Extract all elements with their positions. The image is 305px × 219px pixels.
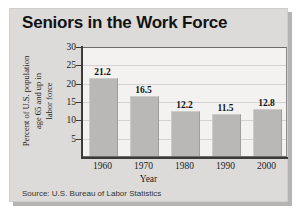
page-title: Seniors in the Work Force <box>22 13 227 33</box>
y-tick-mark <box>76 65 82 66</box>
y-axis-title-line-2: age 65 and up in <box>32 41 44 161</box>
y-tick-mark <box>76 102 82 103</box>
y-tick-label: 30 <box>54 42 76 52</box>
y-tick-mark <box>76 84 82 85</box>
bar <box>130 96 159 157</box>
bar <box>89 78 118 156</box>
y-tick-label: 15 <box>54 97 76 107</box>
y-tick-mark <box>76 120 82 121</box>
bar-value-label: 11.5 <box>204 103 248 113</box>
bar <box>171 111 200 156</box>
x-tick-label: 1970 <box>122 161 166 171</box>
x-axis-line <box>81 157 288 159</box>
x-tick-label: 1990 <box>204 161 248 171</box>
bar <box>253 109 282 156</box>
gridline <box>83 65 286 66</box>
y-tick-label: 25 <box>54 60 76 70</box>
y-tick-label: 5 <box>54 134 76 144</box>
y-axis-title-line-1: Percent of U.S. population <box>21 41 33 161</box>
y-tick-label: 20 <box>54 79 76 89</box>
source-note: Source: U.S. Bureau of Labor Statistics <box>22 189 161 198</box>
x-tick-label: 2000 <box>245 161 289 171</box>
y-tick-label: 10 <box>54 115 76 125</box>
x-tick-label: 1960 <box>81 161 125 171</box>
y-tick-mark <box>76 139 82 140</box>
chart-image: Seniors in the Work Force Percent of U.S… <box>0 0 305 219</box>
chart-card: Seniors in the Work Force Percent of U.S… <box>9 8 288 202</box>
bar-value-label: 16.5 <box>122 85 166 95</box>
bar <box>212 114 241 156</box>
x-tick-label: 1980 <box>163 161 207 171</box>
bar-value-label: 12.2 <box>163 100 207 110</box>
bar-value-label: 12.8 <box>245 98 289 108</box>
y-tick-mark <box>76 47 82 48</box>
bar-value-label: 21.2 <box>81 67 125 77</box>
x-axis-title: Year <box>10 174 287 184</box>
